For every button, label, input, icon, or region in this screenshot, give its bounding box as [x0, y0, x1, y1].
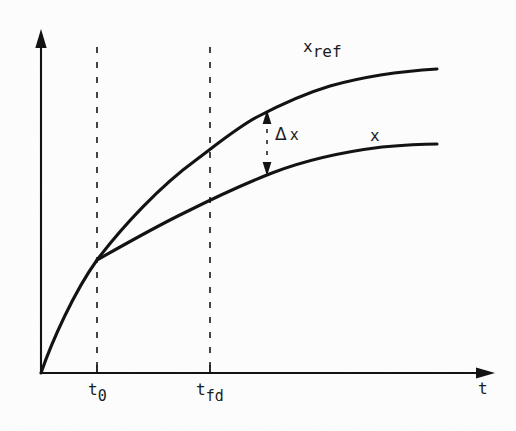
curve-label-x-ref-base: x — [303, 37, 313, 56]
curve-label-x-ref: xref — [303, 44, 342, 60]
delta-x-annotation — [263, 110, 272, 176]
delta-x-label: Δx — [275, 126, 299, 143]
curve-x-ref — [41, 69, 437, 373]
figure-canvas: xref x Δx t0 tfd t — [0, 0, 516, 431]
x-axis-label: t — [478, 381, 488, 397]
delta-symbol: Δ — [275, 124, 287, 144]
x-axis-tick-label-tfd-base: t — [196, 380, 206, 399]
delta-x-variable: x — [290, 126, 299, 144]
y-axis-arrowhead — [35, 29, 46, 48]
tick-marks-group — [97, 365, 210, 373]
axes-group — [35, 29, 495, 379]
curve-label-x-ref-subscript: ref — [313, 42, 342, 61]
curves-group — [41, 69, 437, 373]
x-axis-tick-label-t0-base: t — [88, 380, 98, 399]
x-axis-tick-label-tfd-subscript: fd — [206, 387, 224, 405]
x-axis-tick-label-tfd: tfd — [196, 382, 224, 398]
x-axis-tick-label-t0-subscript: 0 — [98, 387, 107, 405]
x-axis-tick-label-t0: t0 — [88, 382, 107, 398]
x-axis-arrowhead — [476, 367, 495, 378]
curve-label-x: x — [370, 128, 380, 144]
plot-svg — [0, 0, 516, 431]
